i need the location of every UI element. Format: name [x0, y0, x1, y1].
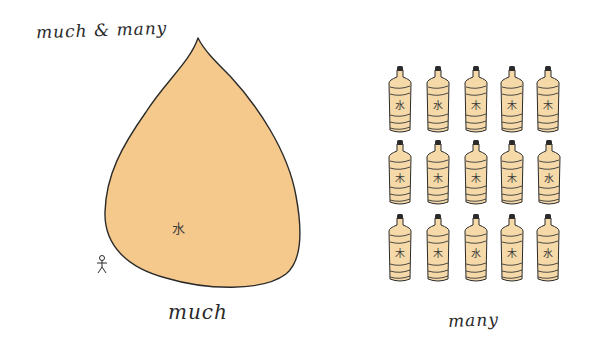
bottle-cap [473, 214, 479, 219]
bottle-cap [546, 140, 552, 145]
water-bottle: 木 [501, 140, 523, 204]
water-bottle: 木 [389, 214, 411, 281]
bottle-grid: 水水木木木木木木木水木木水木水 [389, 66, 560, 281]
bottle-cap [509, 214, 515, 219]
label-much: much [168, 300, 228, 324]
water-drop: 水 [105, 38, 300, 287]
stick-figure-icon [97, 256, 107, 274]
bottle-kanji: 木 [543, 100, 553, 111]
water-bottle: 水 [389, 66, 411, 132]
water-bottle: 木 [501, 214, 523, 281]
water-bottle: 木 [465, 140, 487, 204]
bottle-kanji: 木 [433, 248, 443, 259]
bottle-cap [397, 140, 403, 145]
water-kanji: 水 [172, 221, 185, 236]
bottle-cap [509, 66, 515, 71]
illustration: 水 水水木木木木木木木水木木水木水 [0, 0, 595, 347]
bottle-cap [435, 66, 441, 71]
bottle-cap [435, 214, 441, 219]
bottle-kanji: 水 [471, 248, 481, 259]
water-bottle: 木 [389, 140, 411, 204]
water-bottle: 木 [427, 214, 449, 281]
bottle-kanji: 水 [543, 248, 553, 259]
water-bottle: 木 [501, 66, 523, 132]
water-bottle: 木 [465, 66, 487, 132]
bottle-cap [545, 66, 551, 71]
bottle-kanji: 木 [395, 173, 405, 184]
bottle-kanji: 木 [395, 248, 405, 259]
bottle-cap [473, 66, 479, 71]
bottle-kanji: 水 [544, 173, 554, 184]
bottle-kanji: 水 [433, 100, 443, 111]
water-bottle: 木 [537, 66, 559, 132]
bottle-kanji: 木 [471, 100, 481, 111]
water-bottle: 水 [427, 66, 449, 132]
bottle-cap [397, 214, 403, 219]
label-many: many [448, 309, 499, 331]
bottle-cap [473, 140, 479, 145]
water-bottle: 水 [538, 140, 560, 204]
bottle-kanji: 木 [507, 248, 517, 259]
bottle-cap [397, 66, 403, 71]
bottle-kanji: 木 [471, 173, 481, 184]
water-bottle: 水 [537, 214, 559, 281]
bottle-cap [435, 140, 441, 145]
bottle-cap [545, 214, 551, 219]
bottle-kanji: 木 [507, 173, 517, 184]
bottle-kanji: 木 [433, 173, 443, 184]
water-bottle: 木 [427, 140, 449, 204]
bottle-kanji: 水 [395, 100, 405, 111]
drop-shape [105, 38, 300, 287]
bottle-cap [509, 140, 515, 145]
water-bottle: 水 [465, 214, 487, 281]
bottle-kanji: 木 [507, 100, 517, 111]
